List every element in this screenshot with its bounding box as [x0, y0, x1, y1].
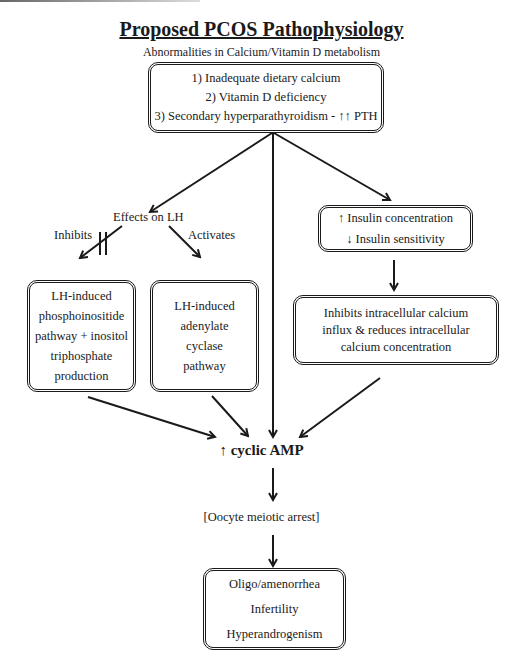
box-line: production: [54, 366, 108, 386]
clinical-outcomes-box: Oligo/amenorrhea Infertility Hyperandrog…: [203, 568, 346, 650]
box-line: influx & reduces intracellular: [322, 322, 470, 339]
activates-label: Activates: [188, 228, 235, 243]
abnormality-item: 3) Secondary hyperparathyroidism - ↑↑ PT…: [154, 109, 377, 124]
oocyte-meiotic-arrest-label: [Oocyte meiotic arrest]: [0, 510, 523, 525]
arrow-to-lh-effects: [150, 133, 272, 212]
box-line: triphosphate: [51, 346, 113, 366]
arrow-calcium-to-camp: [300, 378, 380, 437]
phosphoinositide-pathway-box: LH-induced phosphoinositide pathway + in…: [27, 280, 136, 392]
outcome-item: Hyperandrogenism: [227, 625, 323, 644]
insulin-concentration: ↑ Insulin concentration: [338, 211, 453, 226]
effects-on-lh-label: Effects on LH: [113, 210, 184, 225]
cyclic-amp-label: ↑ cyclic AMP: [0, 442, 523, 459]
box-line: phosphoinositide: [39, 306, 124, 326]
abnormality-item: 1) Inadequate dietary calcium: [192, 71, 341, 86]
box-line: Inhibits intracellular calcium: [324, 305, 468, 322]
outcome-item: Infertility: [251, 600, 299, 619]
insulin-box: ↑ Insulin concentration ↓ Insulin sensit…: [318, 205, 473, 252]
calcium-vitd-abnormalities-box: 1) Inadequate dietary calcium 2) Vitamin…: [148, 62, 384, 133]
arrow-phospho-to-camp: [88, 397, 215, 437]
outcome-item: Oligo/amenorrhea: [229, 575, 320, 594]
insulin-sensitivity: ↓ Insulin sensitivity: [346, 232, 445, 247]
box-line: pathway + inositol: [35, 326, 128, 346]
inhibits-label: Inhibits: [54, 228, 92, 243]
box-line: cyclase: [186, 336, 223, 356]
adenylate-cyclase-pathway-box: LH-induced adenylate cyclase pathway: [150, 280, 259, 392]
box-line: LH-induced: [174, 296, 234, 316]
abnormality-item: 2) Vitamin D deficiency: [206, 90, 327, 105]
arrow-adenylate-to-camp: [212, 396, 248, 436]
intracellular-calcium-box: Inhibits intracellular calcium influx & …: [293, 295, 499, 365]
box-line: adenylate: [181, 316, 229, 336]
box-line: LH-induced: [51, 286, 111, 306]
arrow-to-insulin: [274, 133, 390, 200]
box-line: calcium concentration: [341, 339, 452, 356]
box-line: pathway: [183, 356, 225, 376]
